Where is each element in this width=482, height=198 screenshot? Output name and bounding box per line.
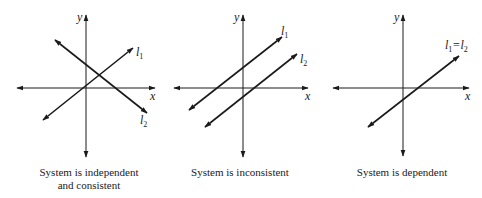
- panel-dependent: y x l1=l2: [333, 10, 471, 156]
- y-axis-label: y: [76, 10, 83, 24]
- x-axis-label: x: [149, 89, 156, 103]
- line-l2-label: l2: [140, 113, 147, 129]
- line-l1-label: l1: [136, 45, 143, 61]
- line-l2: [55, 40, 147, 113]
- x-axis-label: x: [304, 89, 311, 103]
- line-l1: [189, 37, 282, 110]
- panel-independent: y x l1 l2: [17, 10, 156, 157]
- y-axis-label: y: [393, 10, 400, 24]
- y-axis-label: y: [233, 10, 240, 24]
- line-l1: [43, 48, 133, 120]
- caption-inconsistent-text: System is inconsistent: [191, 166, 289, 179]
- caption-independent: System is independent and consistent: [40, 166, 139, 192]
- line-l2: [205, 54, 297, 127]
- line-l1-label: l1: [281, 24, 288, 40]
- caption-independent-line1: System is independent: [40, 166, 139, 179]
- line-l2-label: l2: [300, 52, 307, 68]
- line-l1-equals-l2: [368, 56, 459, 127]
- caption-independent-line2: and consistent: [40, 179, 139, 192]
- caption-inconsistent: System is inconsistent: [191, 166, 289, 179]
- caption-dependent: System is dependent: [357, 166, 447, 179]
- x-axis-label: x: [464, 89, 471, 103]
- caption-dependent-text: System is dependent: [357, 166, 447, 179]
- panel-inconsistent: y x l1 l2: [174, 10, 311, 157]
- line-l1-equals-l2-label: l1=l2: [445, 38, 468, 54]
